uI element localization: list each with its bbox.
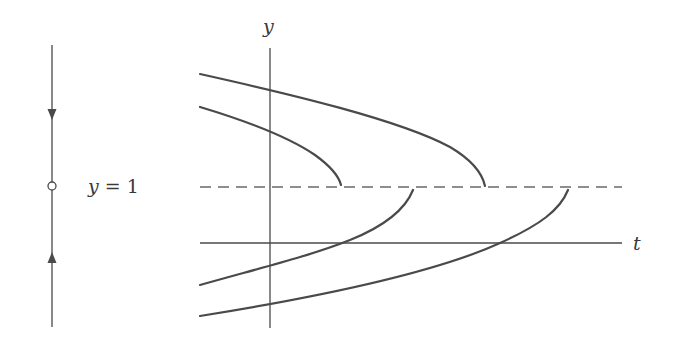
solution-curve-lower-1 [200, 190, 413, 285]
arrow-up-icon [48, 252, 57, 263]
phase-line [48, 45, 57, 327]
diagram-svg: y=1 y t [0, 0, 675, 346]
arrow-down-icon [48, 109, 57, 120]
t-axis-label: t [633, 232, 641, 254]
equilibrium-label: y=1 [87, 175, 139, 197]
diagram-canvas: y=1 y t [0, 0, 675, 346]
axes [200, 48, 622, 328]
solution-curves [200, 74, 568, 316]
equilibrium-open-circle-icon [48, 182, 56, 190]
y-axis-label: y [262, 15, 274, 37]
solution-curve-upper-1 [200, 74, 485, 186]
solution-curve-lower-2 [200, 190, 568, 316]
